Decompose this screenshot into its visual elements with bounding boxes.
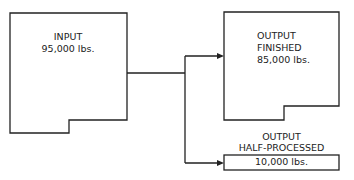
output-finished-subtitle: FINISHED bbox=[257, 42, 323, 54]
output-half-subtitle: HALF-PROCESSED bbox=[224, 142, 339, 153]
output-finished-box bbox=[224, 12, 339, 120]
output-finished-value: 85,000 lbs. bbox=[257, 54, 323, 66]
arrow-to-finished-icon bbox=[217, 53, 224, 59]
arrow-to-half-icon bbox=[217, 160, 224, 166]
output-finished-title: OUTPUT bbox=[257, 30, 323, 42]
input-label: INPUT 95,000 lbs. bbox=[28, 31, 108, 55]
output-half-value: 10,000 lbs. bbox=[224, 156, 339, 168]
input-value: 95,000 lbs. bbox=[28, 43, 108, 55]
output-half-label: OUTPUT HALF-PROCESSED bbox=[224, 131, 339, 153]
connector-line bbox=[127, 56, 220, 163]
flow-diagram bbox=[0, 0, 354, 180]
output-finished-label: OUTPUT FINISHED 85,000 lbs. bbox=[257, 30, 323, 66]
output-half-title: OUTPUT bbox=[224, 131, 339, 142]
input-title: INPUT bbox=[28, 31, 108, 43]
